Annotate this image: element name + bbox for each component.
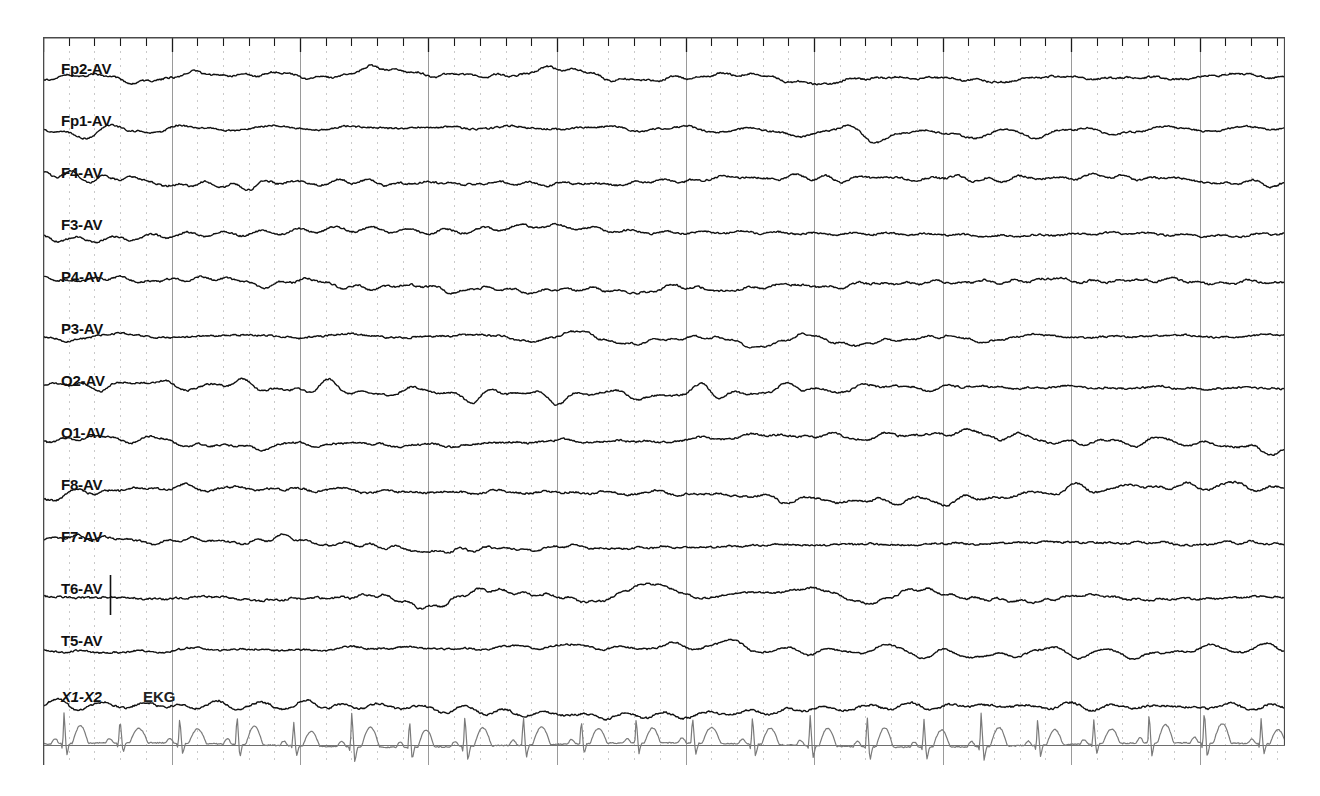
channel-label-x1-x2[interactable]: X1-X2	[61, 689, 102, 704]
eeg-trace	[43, 331, 1285, 348]
channel-label-f4-av[interactable]: F4-AV	[61, 165, 102, 180]
ekg-annotation: EKG	[143, 689, 176, 704]
channel-label-p4-av[interactable]: P4-AV	[61, 269, 103, 284]
eeg-trace	[43, 223, 1285, 242]
eeg-trace	[43, 583, 1285, 609]
eeg-chart-area[interactable]: Fp2-AVFp1-AVF4-AVF3-AVP4-AVP3-AVO2-AVO1-…	[43, 37, 1285, 765]
eeg-trace	[43, 481, 1285, 506]
trace-layer	[43, 65, 1285, 762]
eeg-trace	[43, 534, 1285, 553]
channel-label-f7-av[interactable]: F7-AV	[61, 529, 102, 544]
eeg-trace	[43, 698, 1285, 720]
channel-label-f3-av[interactable]: F3-AV	[61, 217, 102, 232]
eeg-trace	[43, 378, 1285, 405]
channel-label-o2-av[interactable]: O2-AV	[61, 373, 105, 388]
channel-label-t5-av[interactable]: T5-AV	[61, 633, 102, 648]
ruler-layer	[44, 37, 1278, 52]
channel-label-f8-av[interactable]: F8-AV	[61, 477, 102, 492]
grid-layer	[43, 37, 1285, 765]
eeg-trace	[43, 276, 1285, 295]
channel-label-t6-av[interactable]: T6-AV	[61, 581, 102, 596]
channel-label-fp1-av[interactable]: Fp1-AV	[61, 113, 111, 128]
frame-layer	[43, 37, 1285, 765]
eeg-recording-page: Fp2-AVFp1-AVF4-AVF3-AVP4-AVP3-AVO2-AVO1-…	[0, 0, 1320, 796]
eeg-trace	[43, 639, 1285, 659]
channel-label-o1-av[interactable]: O1-AV	[61, 425, 105, 440]
channel-label-fp2-av[interactable]: Fp2-AV	[61, 61, 111, 76]
eeg-trace-canvas	[43, 37, 1285, 765]
ekg-trace	[43, 713, 1285, 762]
channel-label-p3-av[interactable]: P3-AV	[61, 321, 103, 336]
eeg-trace	[43, 171, 1285, 191]
eeg-trace	[43, 125, 1285, 144]
eeg-trace	[43, 65, 1285, 85]
eeg-trace	[43, 428, 1285, 455]
